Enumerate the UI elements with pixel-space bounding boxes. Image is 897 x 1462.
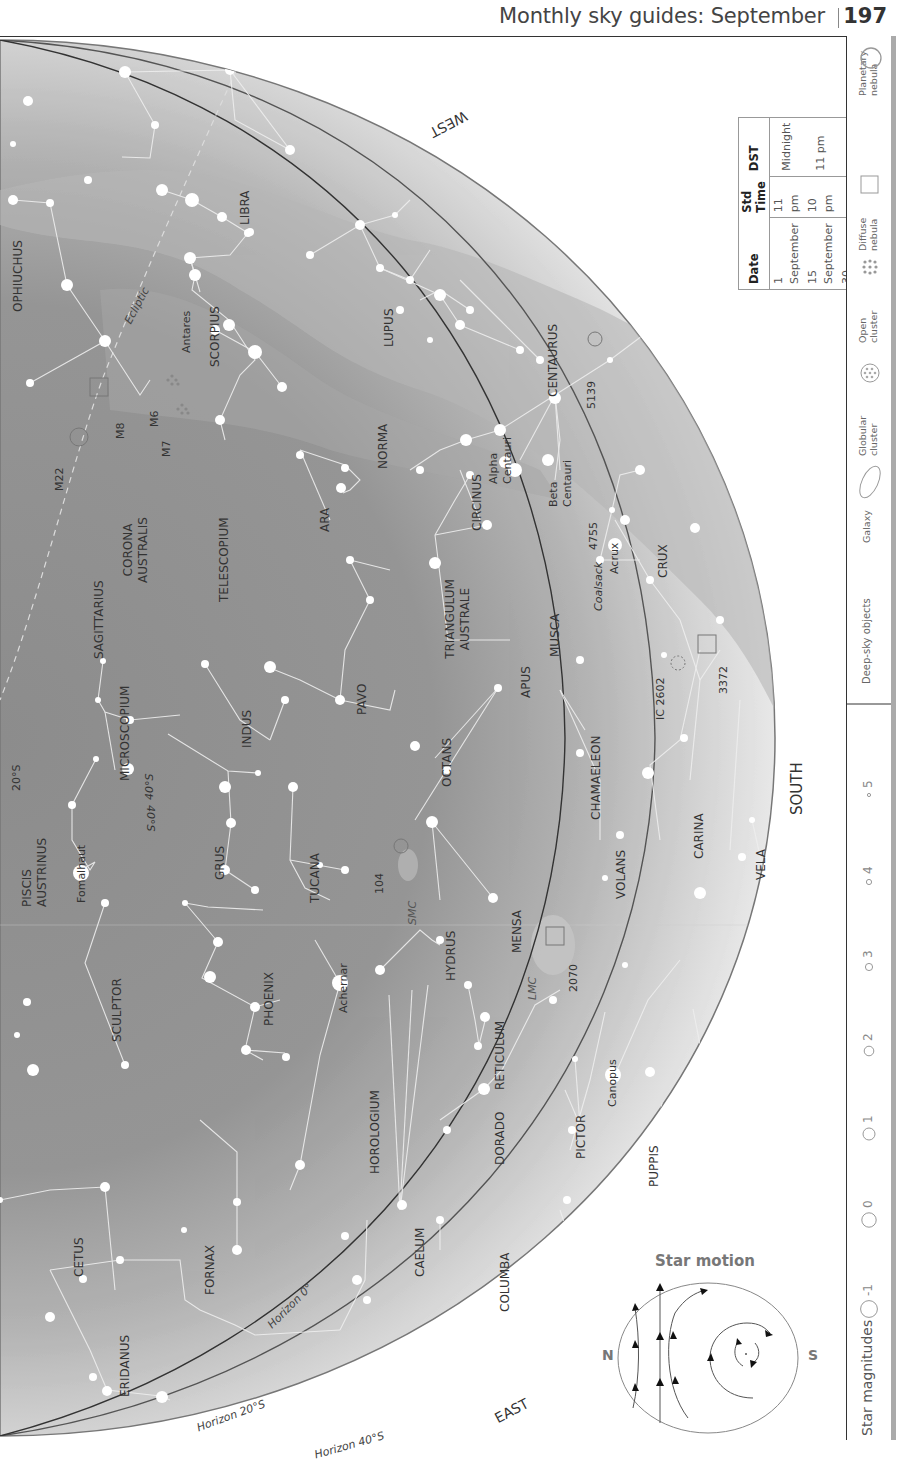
header-divider [838,8,839,28]
constellation-fornax: FORNAX [203,1245,217,1295]
page-number: 197 [843,4,887,28]
constellation-grus: GRUS [213,846,227,880]
star-fomalhaut: Fomalhaut [75,845,88,903]
legend-open-cluster-label: Open cluster [857,307,879,343]
magnitude-1-icon [861,1126,877,1142]
constellation-reticulum: RETICULUM [493,1021,507,1090]
constellation-libra: LIBRA [238,190,252,225]
table-row: 1 September 11 pm Midnight [770,117,805,289]
dso-104: 104 [373,873,386,894]
constellation-sagittarius: SAGITTARIUS [92,580,106,659]
legend-magnitude-2: 2 [861,1033,875,1041]
constellation-musca: MUSCA [548,614,562,657]
star-beta-centauri: Beta Centauri [547,452,575,507]
diffuse-nebula-icon [859,174,881,196]
globular-cluster-icon [859,362,881,384]
star-motion-title: Star motion [655,1252,755,1270]
magnitude-2-icon [862,1044,876,1058]
constellation-pictor: PICTOR [574,1115,588,1159]
dso-m6: M6 [148,411,161,428]
legend-strip: Planetary nebula Diffuse nebula Open clu… [846,36,892,1440]
star-map: WEST SOUTH EAST Horizon 0° Horizon 20°S … [0,37,846,1440]
lat-marker-40s-a: 40°S [143,774,156,800]
constellation-carina: CARINA [692,813,706,859]
constellation-ophiuchus: OPHIUCHUS [11,240,25,312]
constellation-columba: COLUMBA [498,1253,512,1313]
smc-cloud [398,849,418,881]
page-edge [891,36,896,1440]
dso-2070: 2070 [567,964,580,992]
constellation-caelum: CAELUM [413,1228,427,1277]
constellation-norma: NORMA [376,424,390,469]
dso-smc: SMC [406,901,419,925]
time-table-header: Date Std Time DST [739,117,770,289]
cell-dst: 11 pm [804,117,838,176]
legend-deep-sky-title: Deep-sky objects [861,598,872,684]
dso-m8: M8 [114,423,127,440]
cell-std-time: 11 pm [770,176,805,218]
legend-magnitude-0: 0 [861,1200,875,1208]
dso-lmc: LMC [526,977,539,1000]
constellation-centaurus: CENTAURUS [546,324,560,397]
dso-3372: 3372 [717,666,730,694]
constellation-vela: VELA [754,849,768,880]
planetary-nebula-icon [859,46,883,70]
col-date: Date [739,218,770,290]
page-title: Monthly sky guides: September [499,4,825,28]
legend-magnitude-4: 4 [861,866,875,874]
constellation-lupus: LUPUS [382,308,396,347]
cell-date: 1 September [770,218,805,290]
constellation-hydrus: HYDRUS [444,931,458,981]
constellation-scorpius: SCORPIUS [208,306,222,367]
cell-dst: Midnight [770,117,805,176]
constellation-telescopium: TELESCOPIUM [217,517,231,602]
cell-std-time: 10 pm [804,176,838,218]
constellation-tucana: TUCANA [308,853,322,903]
star-achernar: Achernar [337,963,350,1013]
star-motion-north-label: N [602,1347,614,1363]
constellation-octans: OCTANS [440,738,454,787]
magnitude-5-icon [865,791,873,799]
constellation-circinus: CIRCINUS [470,474,484,531]
legend-magnitude-5: 5 [861,780,875,788]
lat-marker-20s: 20°S [10,765,23,791]
star-acrux: Acrux [608,543,621,574]
constellation-cetus: CETUS [72,1237,86,1277]
magnitude-minus1-icon [859,1299,879,1319]
dso-4755: 4755 [587,522,600,550]
star-antares: Antares [180,311,193,353]
legend-magnitude-1: 1 [861,1115,875,1123]
legend-diffuse-nebula-label: Diffuse nebula [857,211,879,251]
open-cluster-icon [861,258,879,276]
legend-magnitude-3: 3 [861,950,875,958]
constellation-sculptor: SCULPTOR [110,978,124,1042]
constellation-triangulum-australe: TRIANGULUM AUSTRALE [443,574,473,664]
constellation-piscis-austrinus: PISCIS AUSTRINUS [20,827,50,907]
magnitude-4-icon [864,877,874,887]
constellation-eridanus: ERIDANUS [118,1335,132,1397]
dso-m22: M22 [53,468,66,492]
constellation-microscopium: MICROSCOPIUM [118,686,132,781]
star-alpha-centauri: Alpha Centauri [487,429,515,484]
constellation-phoenix: PHOENIX [262,972,276,1026]
legend-magnitudes-title: Star magnitudes [859,1320,875,1436]
constellation-crux: CRUX [656,544,670,578]
dso-ic2602: IC 2602 [654,678,667,720]
constellation-apus: APUS [519,666,533,698]
legend-globular-cluster-label: Globular cluster [857,412,879,456]
constellation-pavo: PAVO [355,684,369,715]
col-std-time: Std Time [739,176,770,218]
dso-m7: M7 [160,441,173,458]
magnitude-3-icon [863,961,875,973]
constellation-chamaeleon: CHAMAELEON [589,736,603,820]
constellation-volans: VOLANS [614,850,628,899]
lat-marker-40s-b: 40°S [144,805,157,831]
dso-coalsack: Coalsack [592,562,605,611]
constellation-puppis: PUPPIS [647,1145,661,1187]
galaxy-icon [855,464,885,500]
table-row: 15 September 10 pm 11 pm [804,117,838,289]
legend-galaxy-label: Galaxy [861,510,872,543]
star-motion-diagram [615,1278,805,1438]
constellation-ara: ARA [318,508,332,532]
magnitude-0-icon [860,1211,878,1229]
